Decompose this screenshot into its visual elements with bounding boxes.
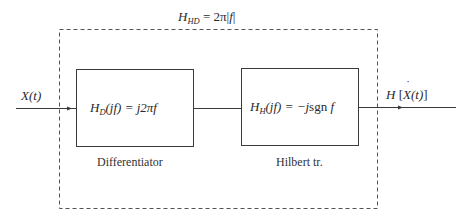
input-label: X(t) [21,88,41,104]
input-label-arg: (t) [29,88,41,103]
tf-arg: (jf) [266,99,282,114]
differentiator-transfer-function: HD(jf) = j2πf [90,100,157,116]
tf-expression: = −j [285,99,309,114]
output-label-arg: (t) [411,87,423,102]
tf-symbol: H [250,99,259,114]
hilbert-caption: Hilbert tr. [276,155,323,170]
output-label-var: X [403,87,411,103]
output-arrow-icon [398,106,403,110]
diagram-lines [0,0,472,223]
tf-function: sgn [309,99,327,114]
input-label-var: X [21,88,29,103]
title-lhs-subscript: HD [187,16,199,26]
tf-symbol: H [90,100,99,115]
tf-expression: = j2πf [125,100,157,115]
system-transfer-title: HHD = 2π|f| [178,9,235,25]
differentiator-caption: Differentiator [97,155,163,170]
hilbert-transfer-function: HH(jf) = −jsgn f [250,99,334,115]
tf-var: f [327,99,334,114]
output-label: H [X(t)] [386,87,428,103]
title-lhs: H [178,9,187,24]
tf-arg: (jf) [106,100,122,115]
title-rhs-end: | [233,9,236,24]
title-rhs: = 2π| [203,9,229,24]
output-label-close: ] [423,87,427,102]
output-label-operator: H [386,87,395,102]
input-arrow-icon [67,107,72,111]
